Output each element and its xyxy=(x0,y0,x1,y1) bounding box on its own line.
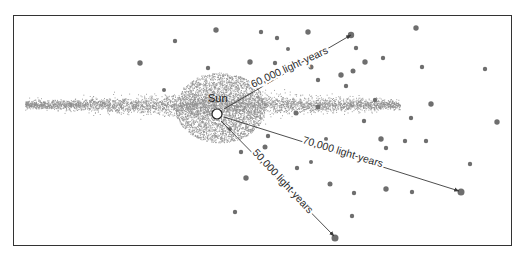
cluster-dot xyxy=(381,56,385,60)
cluster-dot xyxy=(309,160,313,164)
target-cluster-dot xyxy=(458,189,465,196)
cluster-dot xyxy=(403,139,407,143)
cluster-dot xyxy=(362,59,367,64)
cluster-dot xyxy=(206,66,210,70)
sun-label: Sun xyxy=(208,92,228,104)
cluster-dot xyxy=(316,78,320,82)
cluster-dot xyxy=(384,146,388,150)
cluster-dot xyxy=(309,65,314,70)
cluster-dot xyxy=(373,98,377,102)
cluster-dot xyxy=(383,186,388,191)
cluster-dot xyxy=(338,72,343,77)
cluster-dot xyxy=(305,29,310,34)
cluster-dot xyxy=(286,47,290,51)
cluster-dot xyxy=(173,39,177,43)
cluster-dot xyxy=(213,27,218,32)
cluster-dot xyxy=(295,166,299,170)
cluster-dot xyxy=(351,69,356,74)
cluster-dot xyxy=(294,111,299,116)
cluster-dot xyxy=(273,61,277,65)
cluster-dot xyxy=(378,136,383,141)
cluster-dot xyxy=(354,46,358,50)
cluster-dot xyxy=(362,119,366,123)
cluster-dot xyxy=(494,119,499,124)
cluster-dot xyxy=(468,162,472,166)
cluster-dot xyxy=(420,65,424,69)
arrow-70000-label: 70,000 light-years xyxy=(301,133,384,169)
cluster-dot xyxy=(344,84,348,88)
cluster-dot xyxy=(239,150,243,154)
galaxy-disk xyxy=(25,73,401,143)
cluster-dot xyxy=(137,60,142,65)
cluster-dot xyxy=(162,88,166,92)
arrow-50000-label: 50,000 light-years xyxy=(251,146,317,215)
cluster-dot xyxy=(275,36,279,40)
cluster-dot xyxy=(410,190,414,194)
cluster-dot xyxy=(413,25,418,30)
cluster-dot xyxy=(483,67,487,71)
cluster-dot xyxy=(243,175,248,180)
cluster-dot xyxy=(352,191,356,195)
cluster-dot xyxy=(266,134,270,138)
cluster-dot xyxy=(350,214,354,218)
cluster-dot xyxy=(263,145,268,150)
cluster-dot xyxy=(259,30,263,34)
cluster-dot xyxy=(233,210,237,214)
cluster-dot xyxy=(316,105,321,110)
cluster-dot xyxy=(247,59,252,64)
target-cluster-dot xyxy=(332,235,339,242)
cluster-dot xyxy=(424,139,428,143)
cluster-dot xyxy=(328,182,333,187)
cluster-dot xyxy=(428,101,433,106)
distance-arrows: 60,000 light-years70,000 light-years50,0… xyxy=(221,35,459,236)
sun-icon xyxy=(212,109,222,119)
galaxy-diagram: 60,000 light-years70,000 light-years50,0… xyxy=(0,0,529,257)
cluster-dot xyxy=(409,116,413,120)
